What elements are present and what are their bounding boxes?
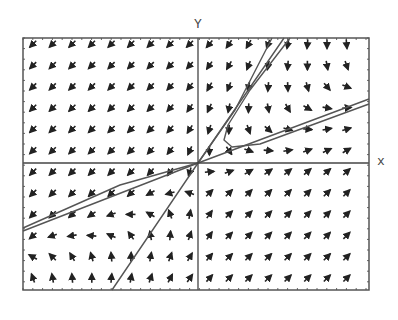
- direction-arrow: [265, 275, 271, 281]
- direction-arrow: [304, 211, 310, 217]
- direction-arrow: [326, 61, 328, 70]
- direction-arrow: [169, 253, 172, 261]
- direction-arrow: [323, 128, 332, 130]
- direction-arrow: [306, 82, 308, 91]
- direction-arrow: [52, 274, 54, 283]
- direction-arrow: [227, 61, 232, 69]
- direction-arrow: [324, 275, 330, 281]
- direction-arrow: [245, 233, 251, 239]
- direction-arrow: [343, 190, 349, 196]
- direction-arrow: [284, 169, 291, 175]
- direction-field-plot: [0, 0, 398, 320]
- direction-arrow: [89, 62, 95, 68]
- direction-arrow: [324, 83, 330, 90]
- direction-arrow: [304, 254, 310, 260]
- direction-arrow: [207, 41, 213, 48]
- direction-arrow: [170, 231, 171, 240]
- direction-arrow: [91, 253, 93, 262]
- direction-arrow: [228, 104, 230, 113]
- direction-arrow: [107, 234, 115, 238]
- direction-arrow: [72, 274, 73, 283]
- direction-arrow: [111, 274, 112, 283]
- direction-arrow: [87, 235, 96, 236]
- direction-arrow: [206, 190, 212, 196]
- direction-arrow: [89, 126, 95, 132]
- direction-arrow: [147, 41, 153, 47]
- direction-arrow: [147, 83, 153, 89]
- direction-arrow: [88, 212, 95, 217]
- direction-arrow: [69, 147, 75, 153]
- direction-arrow: [188, 232, 191, 240]
- direction-arrow: [304, 275, 310, 281]
- direction-arrow: [69, 169, 75, 175]
- direction-arrow: [265, 233, 271, 239]
- direction-arrow: [226, 40, 231, 47]
- direction-arrow: [49, 190, 55, 196]
- direction-arrow: [342, 128, 351, 130]
- direction-arrow: [226, 211, 232, 217]
- direction-arrow: [49, 105, 55, 111]
- direction-arrow: [343, 148, 351, 153]
- direction-arrow: [265, 254, 271, 260]
- direction-arrow: [187, 83, 193, 90]
- direction-arrow: [32, 274, 35, 282]
- direction-arrow: [346, 40, 347, 49]
- direction-arrow: [207, 211, 212, 218]
- direction-arrow: [264, 150, 273, 151]
- direction-arrow: [206, 275, 212, 282]
- direction-arrow: [286, 104, 291, 112]
- direction-arrow: [30, 41, 36, 47]
- direction-arrow: [108, 83, 114, 89]
- direction-arrow: [30, 126, 36, 132]
- direction-arrow: [323, 149, 331, 153]
- direction-arrow: [226, 190, 232, 196]
- direction-arrow: [30, 233, 37, 239]
- direction-arrow: [49, 62, 55, 68]
- direction-arrow: [147, 191, 155, 196]
- direction-arrow: [303, 129, 312, 130]
- direction-arrow: [247, 125, 250, 133]
- direction-arrow: [69, 41, 75, 47]
- direction-arrow: [245, 190, 251, 196]
- direction-arrow: [49, 41, 55, 47]
- direction-arrow: [167, 147, 173, 154]
- direction-arrow: [147, 126, 153, 132]
- direction-arrow: [148, 169, 154, 176]
- direction-arrow: [30, 190, 36, 196]
- direction-arrow: [108, 126, 114, 132]
- direction-arrow: [49, 169, 55, 175]
- direction-arrow: [208, 125, 211, 134]
- direction-arrow: [148, 147, 154, 154]
- direction-arrow: [30, 62, 36, 68]
- direction-arrow: [245, 254, 251, 260]
- direction-arrow: [265, 190, 271, 196]
- direction-arrow: [343, 169, 350, 175]
- direction-arrow: [324, 169, 331, 175]
- direction-arrow: [245, 170, 253, 175]
- direction-arrow: [186, 192, 194, 195]
- direction-arrow: [68, 235, 77, 237]
- direction-arrow: [49, 83, 55, 89]
- direction-arrow: [169, 210, 172, 218]
- direction-arrow: [108, 41, 114, 47]
- direction-arrow: [49, 254, 55, 260]
- direction-arrow: [108, 169, 114, 175]
- direction-arrow: [343, 211, 349, 217]
- direction-arrow: [128, 169, 134, 175]
- direction-arrow: [244, 149, 252, 152]
- direction-arrow: [324, 190, 330, 196]
- direction-arrow: [30, 83, 36, 89]
- direction-arrow: [128, 190, 135, 196]
- direction-arrow: [226, 254, 232, 260]
- direction-arrow: [304, 190, 310, 196]
- direction-arrow: [226, 275, 232, 281]
- direction-arrow: [304, 169, 311, 175]
- direction-arrow: [285, 211, 291, 217]
- direction-arrow: [89, 190, 95, 196]
- direction-arrow: [207, 83, 212, 91]
- direction-arrow: [167, 83, 173, 90]
- direction-arrow: [130, 274, 132, 283]
- direction-arrow: [323, 107, 332, 109]
- direction-arrow: [189, 210, 191, 219]
- direction-arrow: [207, 62, 212, 69]
